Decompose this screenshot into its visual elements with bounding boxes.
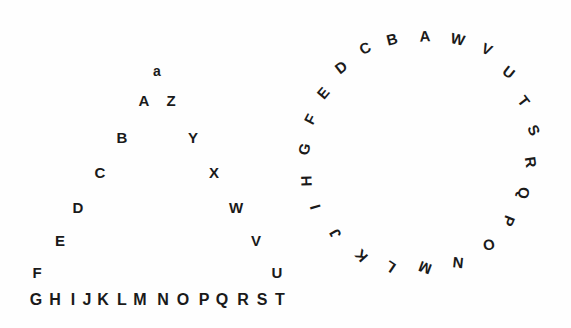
letter-glyph-N: N [452, 255, 464, 271]
letter-glyph-L: L [382, 258, 398, 276]
letter-arrangement-canvas: aABCDEFZYXWVUGHIJKLMNOPQRSTABCDEFGHIJKLM… [0, 0, 571, 328]
letter-glyph-H: H [298, 175, 313, 186]
letter-glyph-G: G [295, 142, 312, 157]
letter-glyph-M: M [417, 259, 434, 277]
letter-glyph-Q: Q [516, 186, 532, 199]
letter-glyph-R: R [523, 156, 539, 169]
letter-glyph-T: T [515, 93, 532, 109]
letter-glyph-J: J [326, 227, 343, 242]
letter-glyph-C: C [357, 39, 373, 57]
letter-glyph-E: E [314, 84, 332, 101]
circle-letter-arrangement: ABCDEFGHIJKLMNOWVUTSRQP [0, 0, 571, 328]
letter-glyph-W: W [449, 30, 466, 48]
letter-glyph-P: P [500, 214, 518, 229]
letter-glyph-U: U [500, 63, 518, 81]
letter-glyph-O: O [482, 236, 497, 253]
letter-glyph-F: F [301, 111, 319, 126]
letter-glyph-B: B [385, 30, 399, 47]
letter-glyph-S: S [525, 122, 543, 137]
letter-glyph-K: K [352, 247, 370, 265]
letter-glyph-A: A [419, 28, 431, 44]
letter-glyph-D: D [332, 58, 350, 76]
letter-glyph-I: I [307, 203, 323, 211]
letter-glyph-V: V [479, 40, 494, 58]
